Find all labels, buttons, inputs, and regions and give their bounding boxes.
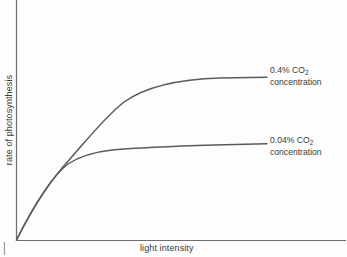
series-label-low-co2-subscript: 2 [310,139,314,146]
chart-plot-area [0,0,347,257]
x-axis-label: light intensity [140,243,194,253]
series-label-high-co2-subscript: 2 [305,69,309,76]
series-label-low-co2: 0.04% CO2 concentration [270,135,322,158]
curve-high-co2 [17,77,268,240]
curve-low-co2 [17,144,268,240]
series-label-high-co2-text: 0.4% CO [270,65,305,75]
series-label-low-co2-line2: concentration [270,147,322,159]
series-label-low-co2-text: 0.04% CO [270,135,310,145]
photosynthesis-light-intensity-chart: rate of photosynthesis light intensity 0… [0,0,347,257]
y-axis-label: rate of photosynthesis [4,75,14,165]
series-label-high-co2-line2: concentration [270,77,322,89]
series-label-high-co2: 0.4% CO2 concentration [270,65,322,88]
